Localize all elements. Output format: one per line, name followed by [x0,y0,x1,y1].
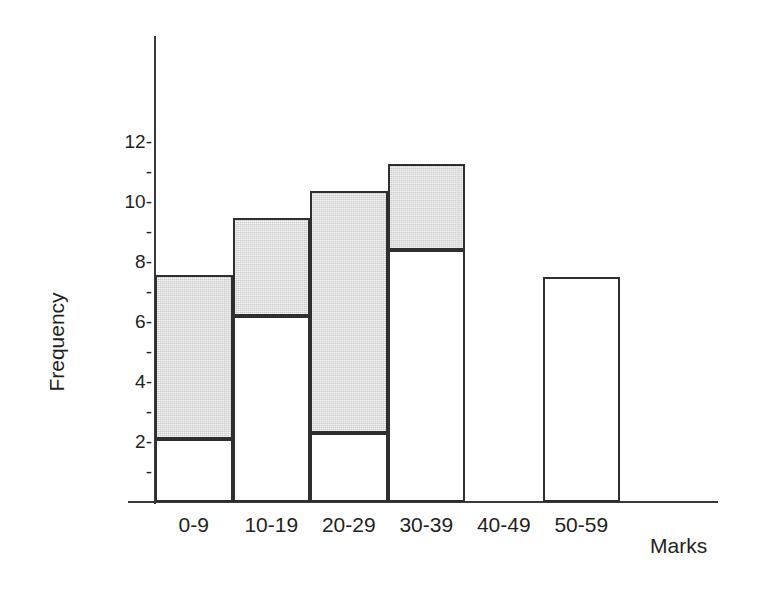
bar-segment-unshaded-0-9 [155,439,233,502]
bar-segment-shaded-10-19 [233,218,311,316]
y-tick-label-6: 6- [135,312,152,332]
x-axis-title: Marks [650,534,707,558]
y-tick-label-5: - [146,342,152,362]
bar-10-19 [233,220,311,502]
bar-segment-unshaded-10-19 [233,316,311,502]
bar-segment-unshaded-50-59 [543,277,621,502]
x-tick-label-40-49: 40-49 [465,512,543,538]
bar-segment-shaded-30-39 [388,164,466,250]
y-tick-label-10: 10- [125,192,152,212]
y-tick-label-11: - [146,162,152,182]
bar-segment-shaded-0-9 [155,275,233,439]
histogram-chart: -2--4--6--8--10--12- 0-910-1920-2930-394… [0,0,780,591]
y-tick-label-7: - [146,282,152,302]
x-tick-label-30-39: 30-39 [388,512,466,538]
bar-segment-unshaded-30-39 [388,250,466,502]
x-tick-label-10-19: 10-19 [233,512,311,538]
bar-30-39 [388,166,466,502]
y-tick-label-1: - [146,462,152,482]
bar-0-9 [155,277,233,502]
y-tick-label-4: 4- [135,372,152,392]
plot-area [155,36,621,502]
y-tick-label-2: 2- [135,432,152,452]
y-tick-label-3: - [146,402,152,422]
bar-segment-unshaded-20-29 [310,433,388,502]
bar-50-59 [543,277,621,502]
y-axis-title: Frequency [45,272,69,412]
x-tick-label-20-29: 20-29 [310,512,388,538]
x-tick-label-50-59: 50-59 [543,512,621,538]
x-tick-label-0-9: 0-9 [155,512,233,538]
y-tick-label-12: 12- [125,132,152,152]
bar-20-29 [310,193,388,502]
bar-segment-shaded-20-29 [310,191,388,433]
y-tick-label-8: 8- [135,252,152,272]
y-tick-label-9: - [146,222,152,242]
